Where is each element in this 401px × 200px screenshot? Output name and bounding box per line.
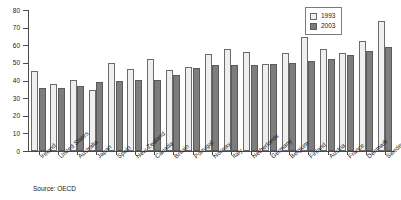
y-axis-tick-label: 80 — [13, 7, 23, 14]
legend-swatch-icon-1993 — [310, 13, 317, 20]
bar-group — [205, 10, 220, 151]
x-axis-tick-label: Finland — [308, 155, 312, 160]
bar-group — [50, 10, 65, 151]
x-axis-tick-label: Japan — [96, 155, 100, 160]
chart-legend: 1993 2003 — [305, 7, 342, 35]
legend-swatch-icon-2003 — [310, 23, 317, 30]
source-note: Source: OECD — [33, 186, 76, 193]
y-axis-tick: 0 — [23, 151, 28, 152]
bar-group — [224, 10, 239, 151]
x-axis-tick-label: Ireland — [39, 155, 43, 160]
x-axis-tick-label: Sweden — [385, 155, 389, 160]
bar-2003-britain[interactable] — [173, 75, 180, 151]
x-axis-tick-label: Portugal — [193, 155, 197, 160]
bar-1993-austria[interactable] — [320, 49, 327, 151]
x-axis-tick-label: Italy — [231, 155, 235, 160]
x-axis-tick-label: Belgium — [289, 155, 293, 160]
bar-2003-norway[interactable] — [212, 65, 219, 151]
y-axis-tick-label: 70 — [13, 25, 23, 32]
bar-group — [359, 10, 374, 151]
bar-1993-sweden[interactable] — [378, 21, 385, 151]
bar-2003-austria[interactable] — [328, 59, 335, 151]
bar-2003-japan[interactable] — [96, 82, 103, 151]
bar-chart: 01020304050607080 IrelandUnited StatesAu… — [0, 0, 401, 200]
bar-1993-portugal[interactable] — [185, 67, 192, 151]
bar-2003-belgium[interactable] — [289, 63, 296, 151]
bar-1993-denmark[interactable] — [359, 41, 366, 151]
bar-group — [262, 10, 277, 151]
x-axis-tick-label: Australia — [77, 155, 81, 160]
legend-label-1993: 1993 — [321, 13, 335, 20]
bar-2003-sweden[interactable] — [385, 47, 392, 151]
y-axis-tick-label: 50 — [13, 60, 23, 67]
bar-group — [108, 10, 123, 151]
legend-label-2003: 2003 — [321, 23, 335, 30]
bar-1993-france[interactable] — [339, 53, 346, 151]
x-axis-tick-label: Denmark — [366, 155, 370, 160]
bar-1993-new-zealand[interactable] — [127, 69, 134, 151]
y-axis-tick-label: 30 — [13, 95, 23, 102]
bar-2003-denmark[interactable] — [366, 51, 373, 151]
x-axis-tick-label: Netherlands — [251, 155, 255, 160]
x-axis-tick-label: United States — [58, 155, 62, 160]
bar-group — [282, 10, 297, 151]
y-axis-tick-label: 60 — [13, 43, 23, 50]
bar-1993-norway[interactable] — [205, 54, 212, 151]
bar-2003-finland[interactable] — [308, 61, 315, 151]
bar-2003-italy[interactable] — [231, 65, 238, 151]
x-axis-tick-label: Norway — [212, 155, 216, 160]
bar-2003-ireland[interactable] — [39, 88, 46, 151]
bar-2003-united-states[interactable] — [58, 88, 65, 151]
bar-2003-france[interactable] — [347, 55, 354, 151]
x-axis-tick-label: Britain — [173, 155, 177, 160]
bar-2003-spain[interactable] — [116, 81, 123, 151]
bar-group — [185, 10, 200, 151]
y-axis-tick-label: 10 — [13, 131, 23, 138]
bar-1993-finland[interactable] — [301, 37, 308, 151]
bar-2003-portugal[interactable] — [193, 68, 200, 151]
y-axis-tick-label: 40 — [13, 78, 23, 85]
bar-group — [31, 10, 46, 151]
bar-1993-spain[interactable] — [108, 63, 115, 151]
bar-group — [243, 10, 258, 151]
legend-item-2003[interactable]: 2003 — [310, 21, 335, 31]
x-axis-tick-label: Austria — [328, 155, 332, 160]
bar-1993-italy[interactable] — [224, 49, 231, 151]
x-axis-tick-label: Spain — [116, 155, 120, 160]
bar-1993-ireland[interactable] — [31, 71, 38, 151]
bar-group — [378, 10, 393, 151]
bar-1993-netherlands[interactable] — [243, 52, 250, 151]
y-axis-tick-label: 0 — [16, 148, 23, 155]
x-axis-tick-label: Germany — [270, 155, 274, 160]
legend-item-1993[interactable]: 1993 — [310, 11, 335, 21]
bar-group — [89, 10, 104, 151]
bar-2003-new-zealand[interactable] — [135, 80, 142, 151]
x-axis-tick-label: France — [347, 155, 351, 160]
x-axis-tick-label: New Zealand — [135, 155, 139, 160]
y-axis-tick-label: 20 — [13, 113, 23, 120]
bar-2003-netherlands[interactable] — [251, 65, 258, 151]
bar-group — [127, 10, 142, 151]
bar-group — [166, 10, 181, 151]
x-axis-tick-label: Canada — [154, 155, 158, 160]
